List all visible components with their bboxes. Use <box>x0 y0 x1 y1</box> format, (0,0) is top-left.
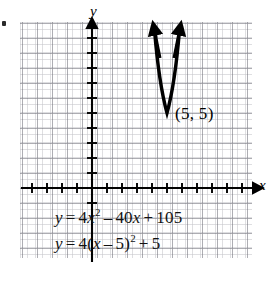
parabola-curve <box>155 30 180 113</box>
eq2-plus: + <box>139 234 149 253</box>
eq1-constant: 105 <box>156 208 182 227</box>
eq1-equals: = <box>66 208 76 227</box>
eq1-var-x2: x <box>133 208 141 227</box>
eq2-lhs: y <box>55 234 63 253</box>
figure-canvas: y x (5, 5) y=4x2–40x+105 y=4(x–5)2+5 <box>0 0 270 283</box>
vertex-point-label: (5, 5) <box>175 104 214 124</box>
eq2-constant: 5 <box>152 234 161 253</box>
eq1-lhs: y <box>55 208 63 227</box>
eq2-coef-open: 4( <box>79 234 94 253</box>
eq2-equals: = <box>66 234 76 253</box>
eq1-plus: + <box>144 208 154 227</box>
eq1-minus: – <box>104 208 113 227</box>
equation-standard-form: y=4x2–40x+105 <box>55 205 265 231</box>
eq2-exponent: 2 <box>130 232 136 244</box>
x-axis <box>21 183 254 193</box>
eq1-var-x: x <box>87 208 95 227</box>
y-axis-label: y <box>90 4 97 19</box>
equation-vertex-form: y=4(x–5)2+5 <box>55 231 265 257</box>
eq2-shift-close: 5) <box>116 234 131 253</box>
x-axis-label: x <box>259 178 266 193</box>
eq2-var-x: x <box>93 234 101 253</box>
eq2-minus: – <box>104 234 113 253</box>
eq1-coef-b: 40 <box>115 208 132 227</box>
eq1-coef-a: 4 <box>79 208 88 227</box>
eq1-exponent: 2 <box>95 206 101 218</box>
equation-list: y=4x2–40x+105 y=4(x–5)2+5 <box>55 205 265 257</box>
